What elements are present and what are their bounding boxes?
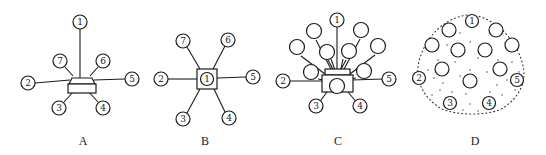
unnumbered-station [371,39,386,54]
node-label: 3 [56,103,62,113]
panel-a: 1 2 3 4 5 6 7 A [21,15,139,148]
dotted-boundary [418,15,524,114]
node-label: 1 [204,74,210,84]
node-label: 2 [416,73,422,83]
node-label: 5 [129,74,135,84]
unnumbered-station [463,74,477,88]
unnumbered-station [493,62,507,76]
central-box-top [69,78,95,84]
unnumbered-station [304,65,319,80]
spoke-b-7 [187,47,200,69]
node-label: 5 [386,74,392,84]
unnumbered-station [330,79,345,94]
node-label: 3 [180,114,186,124]
unnumbered-station [451,43,465,57]
spoke-a-7 [65,67,73,76]
spoke-a-6 [90,67,98,76]
node-label: 3 [313,101,319,111]
unnumbered-station [478,43,492,57]
unnumbered-station [354,23,369,38]
spoke-a-2 [35,80,70,83]
panel-label-c: C [334,134,342,148]
panel-label-d: D [471,134,480,148]
figure-canvas: 1 2 3 4 5 6 7 A 1 2 3 4 5 6 7 [0,0,546,155]
node-label: 1 [469,16,475,26]
unnumbered-station [425,38,439,52]
central-box-top [325,69,350,75]
panel-c: 1 2 3 4 5 C [276,13,396,148]
spoke-c-5 [352,79,383,80]
unnumbered-station [320,45,335,60]
node-label: 2 [25,78,31,88]
node-label: 4 [486,98,492,108]
unnumbered-station [435,62,449,76]
node-label: 1 [77,17,83,27]
node-label: 7 [57,56,63,66]
node-label: 5 [514,75,520,85]
unnumbered-station [342,44,357,59]
node-label: 4 [226,113,232,123]
unnumbered-station [290,40,305,55]
unnumbered-station [357,64,372,79]
node-label: 2 [158,74,164,84]
unnumbered-station [307,24,322,39]
node-label: 6 [100,56,106,66]
unnumbered-station [489,23,503,37]
unnumbered-station [442,23,456,37]
node-label: 6 [225,35,231,45]
node-label: 3 [447,98,453,108]
node-label: 2 [280,76,286,86]
panel-label-b: B [201,134,209,148]
unnumbered-station [505,38,519,52]
spoke-b-6 [213,46,225,69]
spoke-b-4 [214,89,225,112]
central-box-base [68,84,96,93]
spoke-b-5 [217,77,246,78]
panel-d: 1 2 3 4 5 D [413,15,524,149]
panel-b: 1 2 3 4 5 6 7 B [154,33,260,148]
node-label: 4 [357,101,363,111]
node-label: 5 [250,72,256,82]
node-label: 4 [100,103,106,113]
node-label: 7 [180,36,186,46]
spoke-b-3 [187,89,200,113]
spoke-a-5 [94,79,125,80]
panel-label-a: A [79,134,88,148]
node-label: 1 [334,15,340,25]
